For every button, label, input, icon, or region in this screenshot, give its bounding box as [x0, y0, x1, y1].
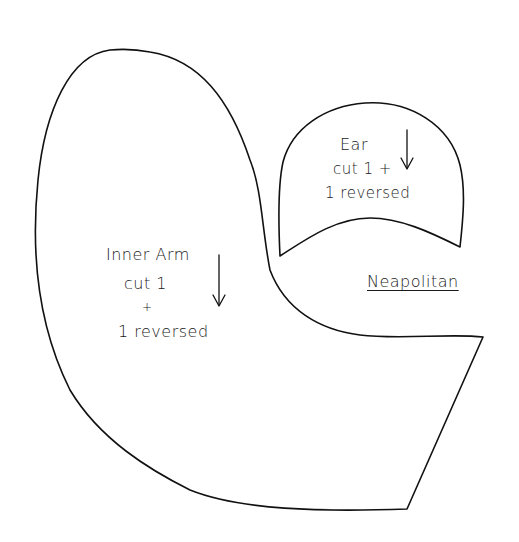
inner-arm-instruction-1: cut 1: [124, 274, 167, 293]
ear-grain-arrow-icon: [401, 130, 413, 169]
pattern-sheet: [0, 0, 519, 542]
ear-instruction-1: cut 1 +: [333, 160, 392, 178]
inner-arm-instruction-2: +: [142, 300, 153, 314]
pattern-name: Neapolitan: [367, 272, 459, 291]
inner-arm-title: Inner Arm: [106, 245, 190, 264]
inner-arm-instruction-3: 1 reversed: [118, 322, 209, 341]
ear-instruction-2: 1 reversed: [325, 184, 410, 202]
ear-title: Ear: [340, 135, 368, 154]
inner-arm-grain-arrow-icon: [213, 255, 225, 306]
ear-outline: [279, 103, 464, 256]
